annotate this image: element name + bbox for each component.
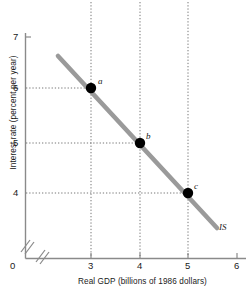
data-point-a (86, 83, 96, 93)
gridline-point-c (26, 193, 188, 256)
gridline-verticals-upper (91, 2, 188, 193)
data-point-label-b: b (146, 131, 151, 141)
x-tick-label-6: 6 (234, 260, 239, 271)
x-tick-label-3: 3 (88, 260, 93, 271)
x-axis-break-icon (36, 250, 49, 264)
x-axis-ticks (91, 253, 237, 259)
data-point-b (135, 138, 145, 148)
y-axis-title: Interest rate (percent per year) (9, 38, 18, 188)
x-tick-label-4: 4 (137, 260, 142, 271)
is-curve-chart: 7 6 5 4 0 3 4 5 6 a b c IS Interest rate… (0, 0, 249, 292)
gridline-point-b (26, 143, 140, 256)
y-axis-break-icon (21, 240, 34, 254)
x-tick-label-5: 5 (185, 260, 190, 271)
data-point-label-c: c (194, 181, 198, 191)
x-axis-title: Real GDP (billions of 1986 dollars) (78, 277, 207, 286)
chart-plot-area (0, 0, 249, 292)
curve-label-is: IS (219, 222, 227, 232)
data-point-label-a: a (98, 76, 103, 86)
y-tick-label-4: 4 (13, 187, 18, 198)
gridline-point-a (26, 88, 91, 256)
data-point-c (183, 188, 193, 198)
x-tick-label-0: 0 (10, 260, 15, 271)
